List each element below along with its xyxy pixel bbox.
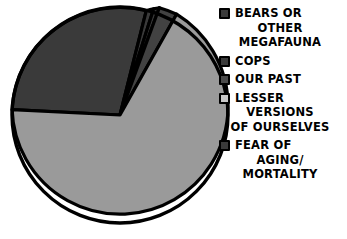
legend-label-bears-line2: other [219, 21, 341, 36]
legend-item-our-past[interactable]: Our past [219, 72, 347, 87]
pie-chart-figure: Bears or other megafauna Cops Our past L… [0, 0, 347, 239]
legend-label-lesser-line1: Lesser [235, 91, 284, 106]
legend-item-bears-megafauna[interactable]: Bears or other megafauna [219, 6, 347, 50]
legend-item-lesser-versions[interactable]: Lesser versions of ourselves [219, 91, 347, 135]
legend-label-lesser-line2: versions [219, 105, 341, 120]
color-swatch-icon-cops [219, 56, 230, 67]
color-swatch-icon-lesser-versions [219, 93, 230, 104]
legend-item-fear-of-aging[interactable]: Fear of aging/ mortality [219, 138, 347, 182]
legend-label-bears-line1: Bears or [235, 6, 302, 21]
legend-label-our-past: Our past [235, 72, 301, 87]
pie-plot-area [0, 0, 232, 239]
legend-item-cops[interactable]: Cops [219, 54, 347, 69]
legend-label-lesser-line3: of ourselves [219, 120, 341, 135]
pie-svg [0, 0, 232, 239]
legend-label-bears-line3: megafauna [219, 35, 341, 50]
legend-label-fear-line1: Fear of [235, 138, 292, 153]
legend-label-fear-line2: aging/ [219, 153, 341, 168]
color-swatch-icon-our-past [219, 74, 230, 85]
chart-legend: Bears or other megafauna Cops Our past L… [219, 6, 347, 234]
legend-label-fear-line3: mortality [219, 167, 341, 182]
legend-label-cops: Cops [235, 54, 271, 69]
color-swatch-icon-bears-megafauna [219, 8, 230, 19]
color-swatch-icon-fear-of-aging [219, 140, 230, 151]
